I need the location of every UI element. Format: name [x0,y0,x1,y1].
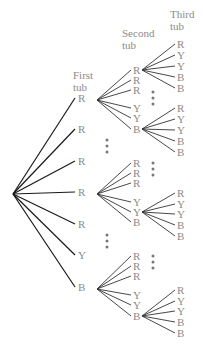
third-tub-label: B [177,230,184,242]
branch-line [142,129,175,152]
tree-labels: RRRRRYBRRRYYBRRRYYBRRRYYBRYYBBRYYBBRYYBB… [78,38,185,339]
ellipsis-dot [106,246,109,249]
ellipsis-dot [106,139,109,142]
third-tub-label: B [177,327,184,339]
second-tub-label: R [133,84,141,96]
header-third-tub: tub [170,20,185,32]
first-tub-label: R [78,186,86,198]
first-tub-label: R [78,218,86,230]
second-tub-label: B [133,123,140,135]
branch-line [142,129,175,141]
branch-line [13,194,75,255]
second-tub-label: B [133,216,140,228]
branch-line [97,256,131,289]
tree-edges [13,44,175,333]
branch-line [13,129,75,194]
second-tub-label: R [133,270,141,282]
ellipsis-dot [152,267,155,270]
header-third-tub: Third [170,8,195,20]
branch-line [142,212,175,236]
branch-line [13,161,75,194]
header-second-tub: Second [122,27,155,39]
ellipsis-dot [152,261,155,264]
branch-line [97,289,131,295]
branch-line [13,194,75,287]
ellipsis-dot [152,103,155,106]
first-tub-label: R [78,155,86,167]
ellipsis-dot [106,240,109,243]
ellipsis-dot [152,162,155,165]
branch-line [97,100,131,118]
branch-line [13,98,75,194]
branch-line [142,129,175,130]
branch-line [97,80,131,100]
branch-line [97,163,131,194]
tree-diagram: FirsttubSecondtubThirdtub RRRRRYBRRRYYBR… [0,0,203,356]
branch-line [142,70,175,77]
first-tub-label: R [78,123,86,135]
third-tub-label: B [177,146,184,158]
branch-line [97,194,131,212]
ellipsis-dot [152,91,155,94]
ellipsis-dot [106,145,109,148]
ellipsis-dot [152,174,155,177]
ellipsis-dot [106,234,109,237]
branch-line [142,204,175,212]
second-tub-label: R [133,177,141,189]
branch-line [142,70,175,88]
header-first-tub: First [73,69,93,81]
branch-line [13,192,75,194]
branch-line [142,193,175,212]
ellipsis-dot [106,151,109,154]
ellipsis-dot [152,97,155,100]
branch-line [142,119,175,129]
third-tub-label: B [177,82,184,94]
first-tub-label: B [78,281,85,293]
second-tub-label: B [133,310,140,322]
branch-line [97,70,131,100]
first-tub-label: Y [78,249,86,261]
ellipsis-dot [152,255,155,258]
header-second-tub: tub [122,39,137,51]
first-tub-label: R [78,92,86,104]
ellipsis-dot [152,168,155,171]
branch-line [97,173,131,194]
branch-line [142,108,175,129]
branch-line [97,183,131,194]
